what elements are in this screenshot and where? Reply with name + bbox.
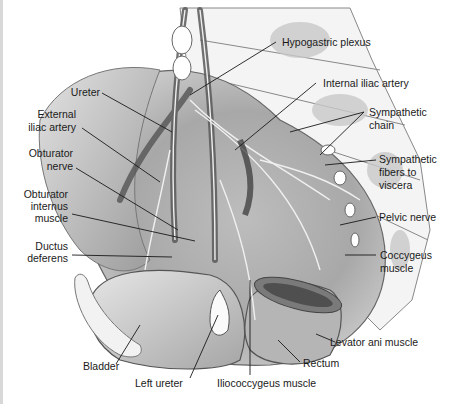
label-sympathetic-fibers-1: Sympathetic bbox=[379, 153, 437, 165]
label-hypogastric-plexus: Hypogastric plexus bbox=[282, 36, 371, 48]
label-sympathetic-chain-1: Sympathetic bbox=[369, 106, 427, 118]
label-obturator-internus-2: internus bbox=[31, 200, 68, 212]
label-coccygeus-1: Coccygeus bbox=[380, 249, 432, 261]
label-bladder: Bladder bbox=[83, 360, 119, 372]
label-obturator-internus-3: muscle bbox=[35, 212, 68, 224]
label-levator-ani: Levator ani muscle bbox=[330, 336, 418, 348]
label-rectum: Rectum bbox=[303, 357, 339, 369]
label-ductus-1: Ductus bbox=[35, 240, 68, 252]
label-internal-iliac-artery: Internal iliac artery bbox=[323, 77, 409, 89]
label-external-iliac-1: External bbox=[37, 108, 76, 120]
anatomy-diagram: Hypogastric plexus Internal iliac artery… bbox=[0, 0, 456, 404]
label-sympathetic-fibers-3: viscera bbox=[379, 179, 412, 191]
label-external-iliac-2: iliac artery bbox=[28, 121, 76, 133]
label-obturator-nerve-1: Obturator bbox=[29, 147, 73, 159]
label-sympathetic-fibers-2: fibers to bbox=[379, 166, 416, 178]
label-ureter: Ureter bbox=[71, 86, 100, 98]
label-obturator-internus-1: Obturator bbox=[24, 188, 68, 200]
label-ductus-2: deferens bbox=[27, 252, 68, 264]
label-left-ureter: Left ureter bbox=[135, 377, 183, 389]
label-coccygeus-2: muscle bbox=[380, 262, 413, 274]
label-sympathetic-chain-2: chain bbox=[369, 119, 394, 131]
label-obturator-nerve-2: nerve bbox=[47, 160, 73, 172]
label-pelvic-nerve: Pelvic nerve bbox=[379, 211, 436, 223]
label-iliococcygeus: Iliococcygeus muscle bbox=[217, 377, 316, 389]
